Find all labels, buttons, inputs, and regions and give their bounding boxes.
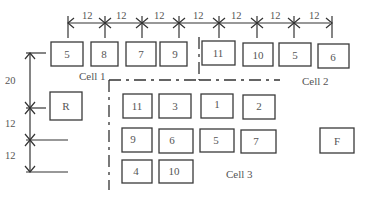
machine-label: 8 bbox=[101, 48, 107, 60]
receiving-label: R bbox=[62, 100, 70, 112]
machine-label: 5 bbox=[64, 48, 70, 60]
row1-machines: 5 8 7 9 11 10 5 6 bbox=[51, 41, 349, 68]
h-dim-1: 12 bbox=[82, 10, 93, 21]
machine-label: 11 bbox=[132, 100, 143, 112]
machine-label: 10 bbox=[253, 49, 265, 61]
machine-label: 6 bbox=[330, 51, 336, 63]
h-dim-5: 12 bbox=[231, 10, 242, 21]
facility-layout-diagram: 12 12 12 12 12 12 12 20 12 12 5 8 bbox=[0, 0, 371, 199]
v-dim-3: 12 bbox=[5, 150, 16, 161]
machine-label: 4 bbox=[133, 165, 139, 177]
h-dim-6: 12 bbox=[270, 10, 281, 21]
cell-1-label: Cell 1 bbox=[79, 70, 106, 82]
machine-label: 9 bbox=[130, 133, 136, 145]
machine-label: 10 bbox=[169, 165, 181, 177]
h-dim-2: 12 bbox=[116, 10, 127, 21]
h-dim-4: 12 bbox=[193, 10, 204, 21]
machine-label: 11 bbox=[213, 47, 224, 59]
machine-label: 1 bbox=[214, 98, 220, 110]
machine-label: 6 bbox=[169, 134, 175, 146]
machine-label: 5 bbox=[292, 49, 298, 61]
machine-label: 3 bbox=[172, 100, 178, 112]
h-dim-7: 12 bbox=[309, 10, 320, 21]
machine-label: 7 bbox=[138, 48, 144, 60]
v-dim-1: 20 bbox=[5, 75, 16, 86]
cell-2-label: Cell 2 bbox=[302, 75, 329, 87]
v-dim-2: 12 bbox=[5, 118, 16, 129]
h-dim-3: 12 bbox=[154, 10, 165, 21]
finishing-label: F bbox=[334, 135, 340, 147]
cell3-machines: 11 3 1 2 9 6 5 7 4 10 bbox=[122, 94, 276, 183]
machine-label: 7 bbox=[253, 135, 259, 147]
machine-label: 5 bbox=[213, 134, 219, 146]
machine-label: 9 bbox=[172, 48, 178, 60]
cell-3-label: Cell 3 bbox=[226, 168, 253, 180]
machine-label: 2 bbox=[256, 100, 262, 112]
horizontal-dimension: 12 12 12 12 12 12 12 bbox=[68, 10, 332, 38]
